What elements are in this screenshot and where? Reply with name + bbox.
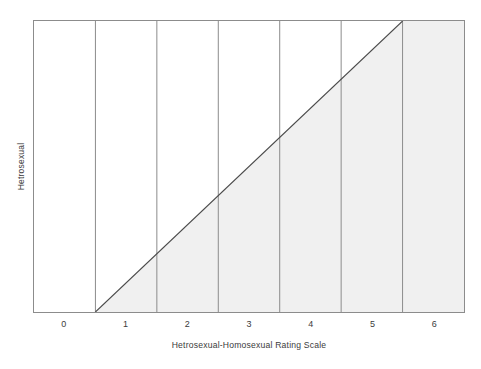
x-axis-tick-labels: 0 1 2 3 4 5 6 [33, 317, 465, 331]
x-tick-3: 3 [234, 317, 264, 331]
x-tick-2: 2 [172, 317, 202, 331]
chart-figure: Hetrosexual Homosexual 0 1 2 3 4 5 6 Het… [0, 0, 481, 369]
x-tick-6: 6 [419, 317, 449, 331]
x-tick-4: 4 [296, 317, 326, 331]
y-axis-label-left: Hetrosexual [14, 20, 28, 313]
plot-graphic [34, 21, 464, 312]
x-axis-title: Hetrosexual-Homosexual Rating Scale [33, 340, 465, 350]
x-tick-1: 1 [111, 317, 141, 331]
plot-area [33, 20, 465, 313]
x-tick-0: 0 [49, 317, 79, 331]
x-tick-5: 5 [357, 317, 387, 331]
shaded-region-last-band [403, 21, 464, 312]
